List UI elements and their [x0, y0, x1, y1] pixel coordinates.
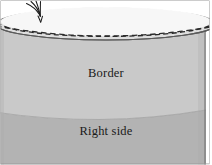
label-right-side: Right side	[0, 124, 212, 139]
cylinder-top	[0, 7, 212, 40]
label-border: Border	[0, 66, 212, 81]
cylinder-diagram-figure: Border Right side	[0, 0, 212, 165]
cylinder-body	[0, 20, 208, 165]
diagram-canvas	[0, 0, 212, 165]
